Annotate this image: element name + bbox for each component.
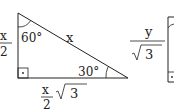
triangle-diagram: 60° x 30° x 2 x 2 3 y 3 (0, 0, 174, 110)
angle-right-label: 30° (78, 65, 99, 79)
bottom-side-numerator: x (42, 83, 49, 97)
angle-arc-30 (106, 67, 108, 78)
bottom-side-radicand: 3 (70, 86, 78, 101)
left-side-denominator: 2 (0, 45, 8, 59)
triangle2-numerator: y (144, 24, 153, 39)
angle-arc-60 (18, 20, 31, 27)
hypotenuse-label: x (66, 30, 74, 45)
triangle-1 (18, 13, 128, 78)
angle-top-label: 60° (21, 31, 42, 45)
left-side-numerator: x (0, 29, 7, 43)
bottom-side-denominator: 2 (43, 98, 51, 110)
triangle2-radicand: 3 (145, 47, 153, 62)
